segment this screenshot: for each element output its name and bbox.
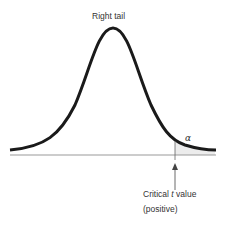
critical-value-label: Critical t value bbox=[143, 189, 196, 199]
critical-label-text: Critical bbox=[143, 189, 171, 199]
arrow-head-icon bbox=[172, 163, 178, 170]
distribution-curve bbox=[10, 28, 216, 150]
alpha-label: α bbox=[185, 133, 191, 143]
critical-value-sign-label: (positive) bbox=[143, 204, 177, 214]
critical-label-text-2: value bbox=[174, 189, 197, 199]
diagram-title: Right tail bbox=[92, 11, 125, 21]
